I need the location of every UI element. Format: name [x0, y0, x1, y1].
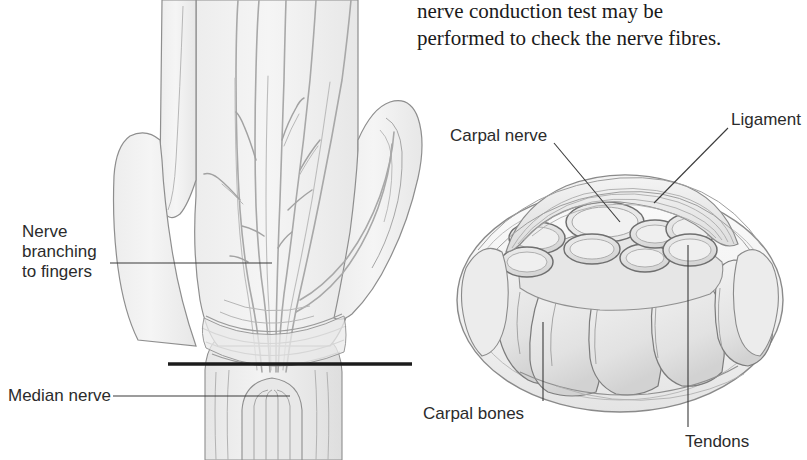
caption-line-1: nerve conduction test may be: [417, 0, 663, 25]
label-carpal-bones: Carpal bones: [423, 404, 524, 424]
anatomy-illustration: [0, 0, 807, 460]
cross-section-group: [457, 128, 783, 427]
label-carpal-nerve: Carpal nerve: [450, 126, 547, 146]
palm-view-group: [110, 0, 422, 460]
figure-canvas: nerve conduction test may be performed t…: [0, 0, 807, 460]
label-tendons: Tendons: [685, 432, 749, 452]
caption-line-2: performed to check the nerve fibres.: [417, 25, 721, 52]
label-ligament: Ligament: [731, 110, 801, 130]
label-median-nerve: Median nerve: [8, 386, 111, 406]
label-nerve-branching-line-1: Nerve: [22, 222, 67, 242]
label-nerve-branching-line-3: to fingers: [22, 262, 92, 282]
label-nerve-branching-line-2: branching: [22, 242, 97, 262]
